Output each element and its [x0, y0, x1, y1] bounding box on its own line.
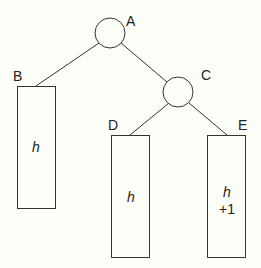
- node-a: A: [95, 13, 136, 48]
- node-a-circle: [95, 18, 125, 48]
- edge-a-b: [36, 43, 99, 86]
- node-c: C: [163, 67, 211, 107]
- edge-c-e: [189, 103, 227, 135]
- node-c-label: C: [201, 67, 211, 83]
- node-b-height: h: [32, 139, 40, 155]
- node-b: B h: [13, 68, 56, 209]
- node-d: D h: [108, 117, 150, 258]
- node-e-height: h: [223, 184, 231, 200]
- node-b-label: B: [13, 68, 22, 84]
- node-e-height-increment: +1: [219, 201, 235, 217]
- node-d-height: h: [127, 189, 135, 205]
- node-e: E h +1: [208, 117, 248, 258]
- edge-c-d: [130, 103, 169, 135]
- node-a-label: A: [126, 13, 136, 29]
- edge-a-c: [121, 43, 167, 82]
- tree-diagram: A C B h D h E h +1: [0, 0, 261, 268]
- node-d-label: D: [108, 117, 118, 133]
- node-c-circle: [163, 77, 193, 107]
- node-e-label: E: [238, 117, 247, 133]
